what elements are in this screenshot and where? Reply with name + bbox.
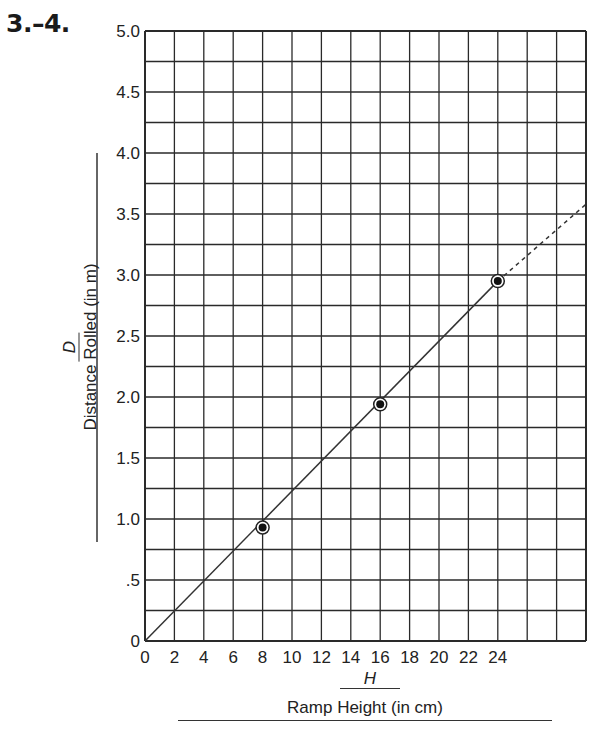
x-tick-label: 4 [199, 648, 208, 667]
x-tick-label: 8 [258, 648, 267, 667]
y-axis-label: D Distance Rolled (in m) [66, 152, 96, 542]
x-tick-label: 2 [170, 648, 179, 667]
trend-lines [145, 204, 586, 641]
x-tick-label: 20 [430, 648, 449, 667]
x-tick-label: 0 [140, 648, 149, 667]
grid-lines [145, 31, 586, 641]
extrapolation-line [498, 204, 586, 281]
data-point-marker [374, 398, 387, 411]
x-tick-label: 12 [312, 648, 331, 667]
x-tick-label: 16 [371, 648, 390, 667]
y-axis-title: Distance Rolled (in m) [81, 263, 100, 430]
x-tick-label: 10 [283, 648, 302, 667]
x-tick-label: 6 [228, 648, 237, 667]
x-axis-variable: H [340, 669, 400, 689]
x-tick-label: 24 [488, 648, 507, 667]
x-tick-label: 22 [459, 648, 478, 667]
data-point-marker [491, 275, 504, 288]
y-axis-variable: D [61, 333, 80, 361]
x-axis-title: Ramp Height (in cm) [178, 697, 552, 721]
y-tick-label: 1.0 [116, 510, 140, 529]
data-point-marker [256, 521, 269, 534]
y-axis-tick-labels: 0.51.01.52.02.53.03.54.04.55.0 [116, 22, 140, 651]
x-tick-label: 18 [400, 648, 419, 667]
y-tick-label: 2.0 [116, 388, 140, 407]
y-tick-label: 4.0 [116, 144, 140, 163]
y-tick-label: 5.0 [116, 22, 140, 41]
y-tick-label: 4.5 [116, 83, 140, 102]
x-axis-tick-labels: 024681012141618202224 [140, 648, 507, 667]
y-tick-label: 0 [131, 632, 140, 651]
y-tick-label: 1.5 [116, 449, 140, 468]
y-tick-label: .5 [126, 571, 140, 590]
y-tick-label: 3.0 [116, 266, 140, 285]
y-tick-label: 2.5 [116, 327, 140, 346]
x-tick-label: 14 [341, 648, 360, 667]
y-tick-label: 3.5 [116, 205, 140, 224]
